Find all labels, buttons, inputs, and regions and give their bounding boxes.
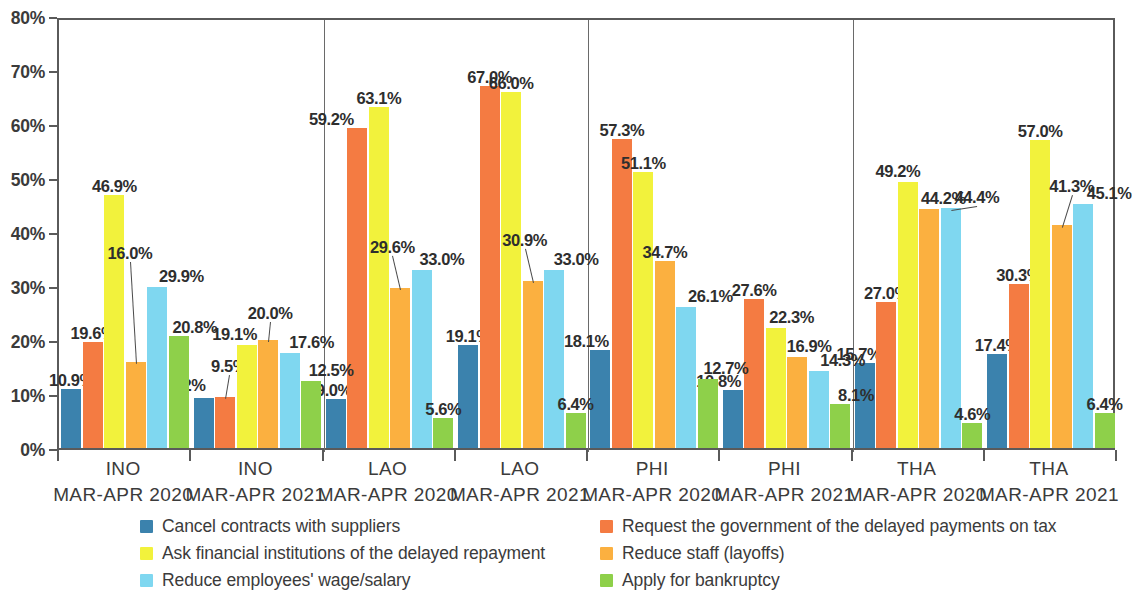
- x-axis-period-label: MAR-APR 2021: [714, 484, 854, 506]
- bar-value-label: 45.1%: [1087, 184, 1132, 203]
- y-axis-tick-label: 60%: [11, 116, 45, 137]
- legend-label: Cancel contracts with suppliers: [162, 516, 400, 537]
- x-axis-group-label: LAOMAR-APR 2021: [450, 458, 590, 506]
- bar: [501, 92, 521, 448]
- x-axis-group-label: PHIMAR-APR 2020: [582, 458, 722, 506]
- chart-legend: Cancel contracts with suppliersRequest t…: [0, 516, 1124, 598]
- label-leader-line: [130, 262, 137, 364]
- x-axis: INOMAR-APR 2020INOMAR-APR 2021LAOMAR-APR…: [0, 450, 1124, 512]
- x-axis-country-label: PHI: [636, 458, 669, 479]
- bar: [766, 328, 786, 448]
- bar: [1095, 413, 1115, 448]
- x-axis-country-label: INO: [238, 458, 273, 479]
- bar-value-label: 33.0%: [419, 250, 464, 269]
- y-axis: 0%10%20%30%40%50%60%70%80%: [0, 0, 57, 470]
- legend-swatch-icon: [600, 574, 613, 587]
- country-group-separator: [588, 20, 589, 452]
- bar: [523, 281, 543, 448]
- legend-item[interactable]: Ask financial institutions of the delaye…: [140, 543, 545, 564]
- bar-value-label: 12.7%: [703, 359, 748, 378]
- bar: [633, 172, 653, 448]
- bar: [104, 195, 124, 448]
- legend-item[interactable]: Cancel contracts with suppliers: [140, 516, 400, 537]
- legend-label: Ask financial institutions of the delaye…: [162, 543, 545, 564]
- bar-value-label: 17.6%: [289, 333, 334, 352]
- legend-label: Apply for bankruptcy: [622, 570, 780, 591]
- bar: [676, 307, 696, 448]
- bar: [301, 381, 321, 449]
- bar: [987, 354, 1007, 448]
- bar-value-label: 5.6%: [425, 400, 461, 419]
- legend-swatch-icon: [600, 520, 613, 533]
- plot-area: 10.9%9.2%9.0%19.1%18.1%10.8%15.7%17.4%19…: [57, 18, 1115, 450]
- bar: [147, 287, 167, 448]
- x-axis-country-label: PHI: [768, 458, 801, 479]
- x-axis-country-label: INO: [106, 458, 141, 479]
- bar: [369, 107, 389, 448]
- bar-value-label: 26.1%: [688, 287, 733, 306]
- label-leader-line: [525, 249, 534, 283]
- bar: [390, 288, 410, 448]
- bar-value-label: 22.3%: [769, 308, 814, 327]
- legend-swatch-icon: [140, 547, 153, 560]
- legend-swatch-icon: [140, 574, 153, 587]
- bar: [876, 302, 896, 448]
- y-axis-tickmark: [49, 125, 57, 127]
- y-axis-tick-label: 40%: [11, 224, 45, 245]
- bar-value-label: 29.9%: [159, 267, 204, 286]
- bar-value-label: 63.1%: [356, 89, 401, 108]
- legend-item[interactable]: Apply for bankruptcy: [600, 570, 780, 591]
- bar-value-label: 51.1%: [621, 154, 666, 173]
- bar: [1052, 225, 1072, 448]
- bar: [787, 357, 807, 448]
- bar-value-label: 30.9%: [502, 231, 547, 250]
- x-axis-period-label: MAR-APR 2020: [53, 484, 193, 506]
- y-axis-tickmark: [49, 17, 57, 19]
- legend-item[interactable]: Request the government of the delayed pa…: [600, 516, 1056, 537]
- bar: [458, 345, 478, 448]
- bar: [433, 418, 453, 448]
- y-axis-tick-label: 30%: [11, 278, 45, 299]
- bar-value-label: 19.1%: [212, 325, 257, 344]
- bar: [280, 353, 300, 448]
- y-axis-tickmark: [49, 233, 57, 235]
- y-axis-tickmark: [49, 287, 57, 289]
- bar: [544, 270, 564, 448]
- bar-value-label: 49.2%: [875, 162, 920, 181]
- bar: [347, 128, 367, 448]
- x-axis-group-label: THAMAR-APR 2020: [847, 458, 987, 506]
- bar: [830, 404, 850, 448]
- x-axis-group-label: INOMAR-APR 2020: [53, 458, 193, 506]
- bar: [723, 390, 743, 448]
- y-axis-tickmark: [49, 341, 57, 343]
- bar-value-label: 59.2%: [309, 110, 354, 129]
- bar-value-label: 27.6%: [732, 281, 777, 300]
- bar-value-label: 14.3%: [820, 351, 865, 370]
- y-axis-tick-label: 80%: [11, 8, 45, 29]
- bar: [326, 399, 346, 448]
- legend-item[interactable]: Reduce staff (layoffs): [600, 543, 785, 564]
- legend-swatch-icon: [140, 520, 153, 533]
- bar: [809, 371, 829, 448]
- bar-value-label: 6.4%: [558, 395, 594, 414]
- x-axis-period-label: MAR-APR 2021: [185, 484, 325, 506]
- legend-item[interactable]: Reduce employees' wage/salary: [140, 570, 411, 591]
- label-leader-line: [392, 256, 401, 290]
- x-axis-group-label: THAMAR-APR 2021: [979, 458, 1119, 506]
- x-axis-group-label: LAOMAR-APR 2020: [318, 458, 458, 506]
- bar: [698, 379, 718, 448]
- x-axis-country-label: LAO: [500, 458, 539, 479]
- legend-label: Request the government of the delayed pa…: [622, 516, 1056, 537]
- bar: [126, 362, 146, 448]
- x-axis-period-label: MAR-APR 2021: [450, 484, 590, 506]
- bar: [855, 363, 875, 448]
- bar-value-label: 20.0%: [248, 304, 293, 323]
- bar-value-label: 16.0%: [107, 244, 152, 263]
- y-axis-tickmark: [49, 395, 57, 397]
- x-axis-period-label: MAR-APR 2021: [979, 484, 1119, 506]
- bar-value-label: 20.8%: [172, 318, 217, 337]
- y-axis-tickmark: [49, 71, 57, 73]
- x-axis-period-label: MAR-APR 2020: [582, 484, 722, 506]
- bar: [237, 345, 257, 448]
